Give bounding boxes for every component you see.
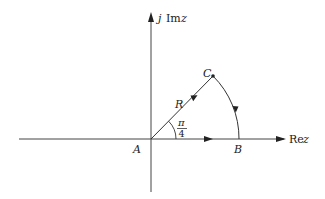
arc-segment-cb xyxy=(213,76,239,139)
imaginary-axis xyxy=(148,12,154,192)
imag-axis-label-im: Im xyxy=(166,12,181,25)
radius-label: R xyxy=(174,98,183,111)
real-segment-arrow-icon xyxy=(204,136,213,142)
imaginary-axis-arrow-icon xyxy=(148,12,154,22)
point-c-label: C xyxy=(203,67,212,80)
real-axis-label-z: z xyxy=(302,133,309,146)
point-c-marker xyxy=(211,74,215,78)
contour-diagram: j Im z Re z A B C R π 4 xyxy=(0,0,325,199)
point-b-label: B xyxy=(233,143,242,156)
real-axis-arrow-icon xyxy=(276,136,286,142)
imag-axis-label-z: z xyxy=(180,12,187,25)
angle-denominator: 4 xyxy=(179,128,185,139)
angle-arc xyxy=(169,121,176,139)
angle-numerator: π xyxy=(177,117,185,128)
arc-direction-arrow-icon xyxy=(233,106,239,113)
real-axis-label-re: Re xyxy=(289,133,304,146)
imag-axis-label-j: j xyxy=(155,12,162,25)
point-a-label: A xyxy=(132,143,141,156)
